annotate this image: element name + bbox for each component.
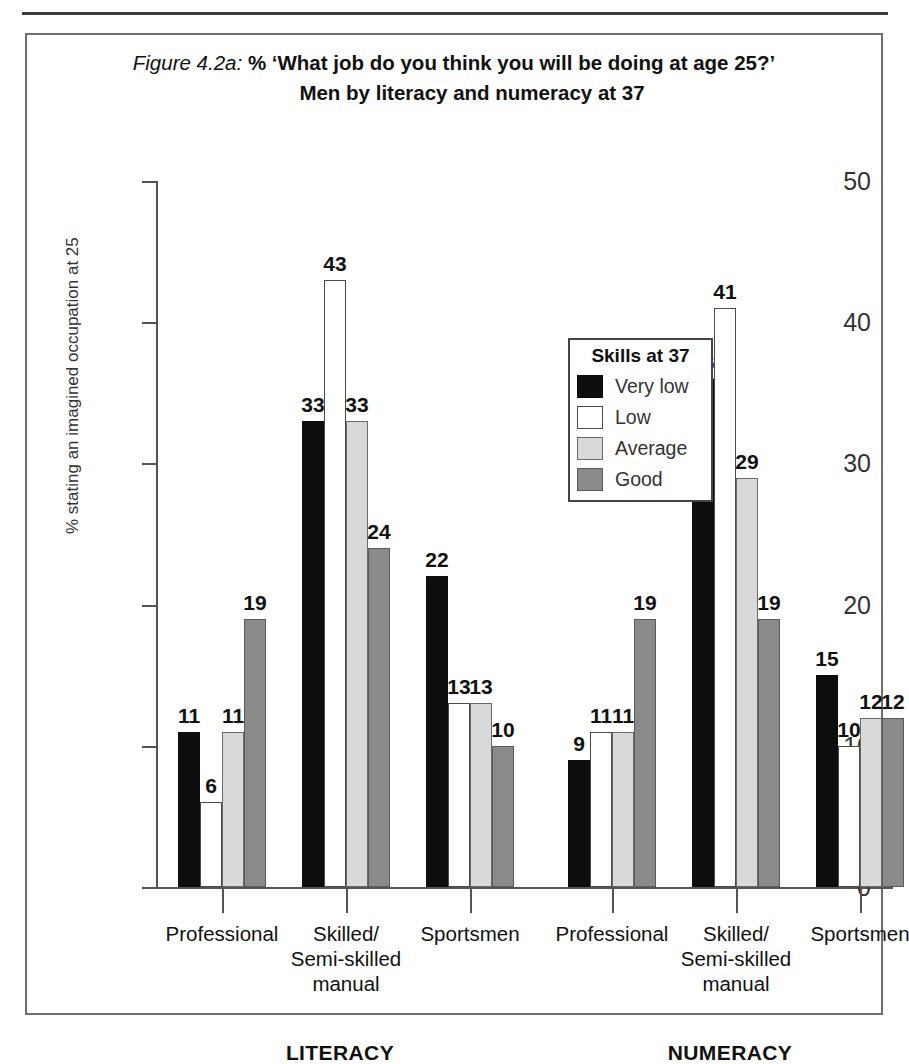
legend-swatch [577,406,603,429]
bar-value-label: 41 [705,280,745,304]
legend-swatch [577,468,603,491]
bar [178,732,200,887]
bar-value-label: 15 [807,647,847,671]
bar [714,308,736,887]
y-axis-tick-label: 50 [843,167,871,196]
x-axis-tick [736,889,738,913]
legend-entry: Good [570,464,711,495]
y-axis-tick [142,605,158,607]
legend-entry: Average [570,433,711,464]
legend-swatch [577,437,603,460]
x-axis-line [156,887,893,889]
bar [222,732,244,887]
x-axis-tick [222,889,224,913]
bar-value-label: 13 [461,675,501,699]
page-top-rule [22,12,888,15]
x-axis-tick [860,889,862,913]
x-axis-tick [612,889,614,913]
y-axis-tick-label: 30 [843,449,871,478]
bar [860,718,882,887]
y-axis-title: % stating an imagined occupation at 25 [63,237,83,534]
bar [346,421,368,887]
legend-entries: Very lowLowAverageGood [570,371,711,495]
bar [882,718,904,887]
panel-label: LITERACY [190,1041,490,1064]
legend-swatch [577,375,603,398]
bar-value-label: 12 [873,690,909,714]
bar [492,746,514,887]
bar [758,619,780,887]
legend-label: Good [615,468,663,491]
bar [368,548,390,887]
category-label: Sportsmen [775,921,909,946]
figure-subtitle: Men by literacy and numeracy at 37 [27,78,881,108]
bar [302,421,324,887]
y-axis-tick [142,322,158,324]
x-axis-tick [346,889,348,913]
y-axis-tick-label: 40 [843,308,871,337]
figure-title: Figure 4.2a: % ‘What job do you think yo… [27,48,881,107]
bar [816,675,838,887]
bar-value-label: 29 [727,450,767,474]
legend-label: Low [615,406,651,429]
bar-value-label: 43 [315,252,355,276]
bar [634,619,656,887]
bar [426,576,448,887]
legend-entry: Very low [570,371,711,402]
bar-value-label: 11 [169,704,209,728]
bar [590,732,612,887]
plot-area: 01020304050 1161119334333242213131091111… [156,181,893,887]
legend-entry: Low [570,402,711,433]
y-axis-tick-label: 20 [843,590,871,619]
bar-value-label: 19 [625,591,665,615]
bar-value-label: 33 [337,393,377,417]
bar [838,746,860,887]
legend-label: Very low [615,375,689,398]
bar [244,619,266,887]
legend-title: Skills at 37 [570,345,711,367]
legend-label: Average [615,437,687,460]
bar-value-label: 22 [417,548,457,572]
bar [448,703,470,887]
figure-number: Figure 4.2a: [133,51,242,74]
figure-title-text: % ‘What job do you think you will be doi… [242,51,775,74]
bar [736,478,758,887]
bar [568,760,590,887]
y-axis-tick [142,181,158,183]
figure-frame: Figure 4.2a: % ‘What job do you think yo… [25,33,883,1015]
bar-value-label: 19 [749,591,789,615]
bar [324,280,346,887]
y-axis-tick [142,887,158,889]
bar-value-label: 10 [483,718,523,742]
bar-value-label: 19 [235,591,275,615]
legend: Skills at 37 Very lowLowAverageGood [568,338,713,502]
figure-title-line-1: Figure 4.2a: % ‘What job do you think yo… [27,48,881,78]
y-axis-tick [142,463,158,465]
panel-label: NUMERACY [580,1041,880,1064]
bar [612,732,634,887]
y-axis-line [156,181,158,887]
y-axis-tick [142,746,158,748]
bar-value-label: 24 [359,520,399,544]
bar [200,802,222,887]
x-axis-tick [470,889,472,913]
